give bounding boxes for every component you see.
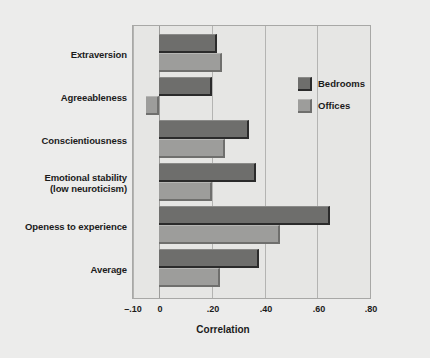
legend: Bedrooms Offices bbox=[298, 74, 365, 118]
xtick-label-0.80: .80 bbox=[365, 304, 378, 314]
bar-openess-to-experience-offices bbox=[159, 225, 280, 244]
category-label-agreeableness: Agreeableness bbox=[1, 92, 127, 103]
bar-average-bedrooms bbox=[159, 249, 259, 268]
category-label-line: (low neuroticism) bbox=[1, 183, 127, 194]
legend-label-offices: Offices bbox=[318, 100, 350, 111]
category-label-line: Average bbox=[1, 264, 127, 275]
x-axis-title: Correlation bbox=[196, 324, 249, 335]
category-label-emotional-stability: Emotional stability (low neuroticism) bbox=[1, 172, 127, 194]
xtick-label--0.10: –.10 bbox=[124, 304, 142, 314]
bar-conscientiousness-offices bbox=[159, 139, 225, 158]
category-label-conscientiousness: Conscientiousness bbox=[1, 135, 127, 146]
xtick-label-0: 0 bbox=[157, 304, 162, 314]
bar-conscientiousness-bedrooms bbox=[159, 120, 249, 139]
category-label-line: Emotional stability bbox=[1, 172, 127, 183]
chart-container: Extraversion Agreeableness Conscientious… bbox=[0, 0, 430, 358]
category-label-extraversion: Extraversion bbox=[1, 49, 127, 60]
xtick-label-0.40: .40 bbox=[260, 304, 273, 314]
legend-label-bedrooms: Bedrooms bbox=[318, 78, 365, 89]
category-label-average: Average bbox=[1, 264, 127, 275]
plot-area bbox=[132, 25, 371, 299]
legend-swatch-bedrooms-icon bbox=[298, 77, 312, 91]
category-label-line: Conscientiousness bbox=[1, 135, 127, 146]
legend-item-bedrooms: Bedrooms bbox=[298, 74, 365, 93]
legend-swatch-offices-icon bbox=[298, 99, 312, 113]
bar-extraversion-bedrooms bbox=[159, 34, 217, 53]
xtick-label-0.20: .20 bbox=[207, 304, 220, 314]
category-label-line: Openess to experience bbox=[1, 221, 127, 232]
bar-emotional-stability-offices bbox=[159, 182, 212, 201]
gridline-0.60 bbox=[317, 26, 318, 298]
figure-canvas: Extraversion Agreeableness Conscientious… bbox=[0, 0, 430, 358]
gridline--0.10 bbox=[133, 26, 134, 298]
category-label-openess-to-experience: Openess to experience bbox=[1, 221, 127, 232]
category-label-line: Extraversion bbox=[1, 49, 127, 60]
bar-openess-to-experience-bedrooms bbox=[159, 206, 330, 225]
category-label-line: Agreeableness bbox=[1, 92, 127, 103]
bar-agreeableness-bedrooms bbox=[159, 77, 212, 96]
bar-average-offices bbox=[159, 268, 220, 287]
bar-agreeableness-offices bbox=[146, 96, 159, 115]
xtick-label-0.60: .60 bbox=[313, 304, 326, 314]
bar-extraversion-offices bbox=[159, 53, 222, 72]
legend-item-offices: Offices bbox=[298, 96, 365, 115]
gridline-0.40 bbox=[265, 26, 266, 298]
bar-emotional-stability-bedrooms bbox=[159, 163, 256, 182]
